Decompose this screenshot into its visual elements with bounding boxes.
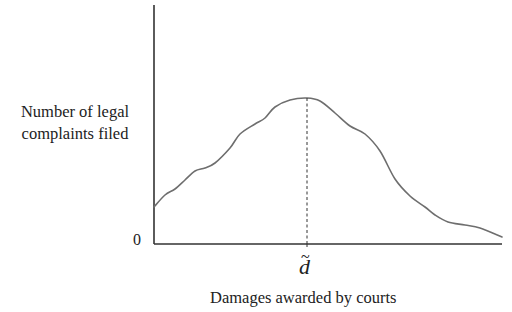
- y-origin-label: 0: [133, 231, 141, 249]
- y-axis-label-line-2: complaints filed: [2, 123, 148, 145]
- tilde-accent: ~: [301, 248, 310, 266]
- chart-canvas: [0, 0, 512, 312]
- y-axis-label-line-1: Number of legal: [2, 101, 148, 123]
- distribution-curve: [154, 98, 502, 237]
- x-axis-label: Damages awarded by courts: [210, 288, 396, 308]
- x-marker-label: d ~: [299, 254, 310, 280]
- y-axis-label: Number of legal complaints filed: [2, 101, 148, 145]
